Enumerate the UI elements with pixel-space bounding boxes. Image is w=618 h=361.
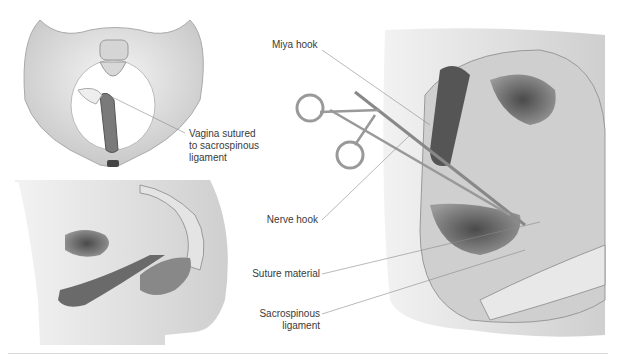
- label-sacrospinous-line1: Sacrospinous: [240, 308, 320, 320]
- label-miya-hook: Miya hook: [272, 39, 318, 51]
- label-nerve-hook: Nerve hook: [258, 214, 318, 226]
- label-vagina-sutured-line1: Vagina sutured: [189, 128, 256, 140]
- illustration-canvas: [0, 0, 618, 361]
- surgical-view: [297, 28, 605, 336]
- bottom-rule: [8, 353, 608, 354]
- pelvis-front-view: [24, 20, 203, 167]
- label-vagina-sutured-line2: to sacrospinous: [189, 140, 259, 152]
- label-sacrospinous-line2: ligament: [240, 320, 320, 332]
- label-suture-material: Suture material: [240, 268, 320, 280]
- label-vagina-sutured-line3: ligament: [189, 152, 227, 164]
- pelvis-sagittal-view: [18, 180, 228, 345]
